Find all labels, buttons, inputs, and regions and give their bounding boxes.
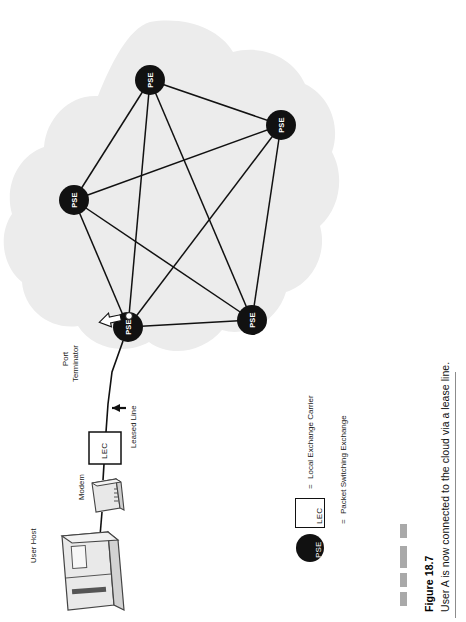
modem-device-icon [92,479,124,512]
user-host-computer-icon [62,532,124,610]
figure-number: Figure 18.7 [424,555,435,612]
decor-dash-3 [400,592,407,606]
pse-node-label: PSE [248,312,257,328]
pse-node[interactable]: PSE [266,110,296,140]
decor-dash-2 [400,573,407,587]
legend-pse-description: Packet Switching Exchange [340,415,348,514]
legend-lec-symbol: LEC [316,508,324,524]
decor-dash-4 [400,524,407,538]
pse-node[interactable]: PSE [237,305,267,335]
caption-rule [455,372,456,618]
label-port-terminator-line2: Terminator [72,345,80,382]
pse-node[interactable]: PSE [59,185,89,215]
label-leased-line: Leased Line [130,406,138,448]
legend-lec-description: Local Exchange Carrier [307,395,315,479]
figure-caption: User A is now connected to the cloud via… [440,362,451,612]
legend-lec-equals: = [307,484,315,489]
pse-node-label: PSE [70,192,79,208]
figure-page: PSEPSEPSEPSEPSE [0,0,466,622]
decor-dash-1 [400,546,407,568]
label-port-terminator-line1: Port [62,352,70,366]
pse-node-label: PSE [124,319,133,335]
legend-pse-equals: = [340,519,348,524]
port-terminator-dot [126,313,133,320]
leased-line-arrow-icon [112,404,126,412]
leased-line-path [106,341,123,432]
label-lec-device: LEC [101,443,109,459]
pse-node-label: PSE [146,72,155,88]
lec-to-modem-line [103,464,104,480]
cloud-shape [4,21,339,351]
network-diagram: PSEPSEPSEPSEPSE [0,0,466,622]
label-user-host: User Host [30,528,38,563]
pse-node[interactable]: PSE [135,65,165,95]
legend-pse-symbol: PSE [315,541,323,558]
pse-node-label: PSE [277,117,286,133]
label-modem: Modem [78,474,86,500]
